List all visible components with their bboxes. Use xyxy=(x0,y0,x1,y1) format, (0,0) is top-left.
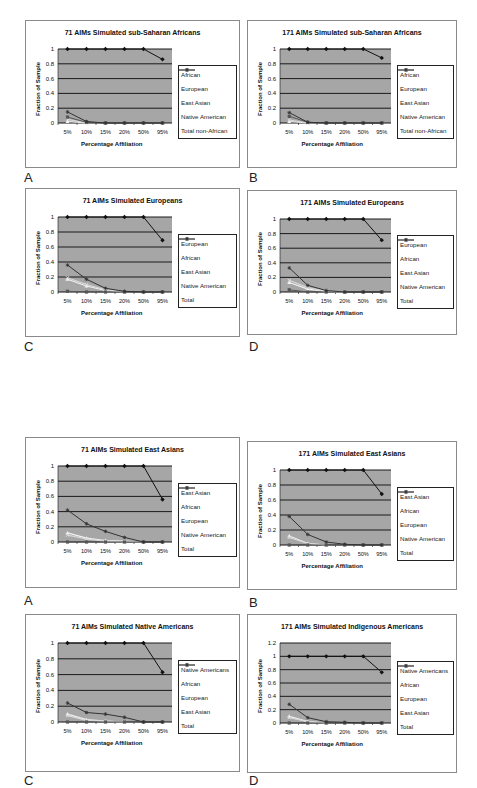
chart-legend: East AsianAfricanEuropeanNative American… xyxy=(397,487,454,561)
y-axis-label: Fraction of Sample xyxy=(35,658,41,712)
x-tick-label: 15% xyxy=(100,298,111,304)
x-tick-label: 5% xyxy=(285,729,293,735)
y-tick-label: 1.2 xyxy=(268,640,277,646)
chart-panel-top-C: 71 AIMs Simulated Europeans10.80.60.40.2… xyxy=(25,188,240,337)
legend-item: Total non-African xyxy=(181,123,234,137)
data-point-marker xyxy=(306,543,309,546)
data-point-marker xyxy=(288,721,291,724)
data-point-marker xyxy=(161,121,165,125)
y-tick-label: 0.2 xyxy=(46,524,55,530)
data-point-marker xyxy=(306,120,310,124)
panel-letter: C xyxy=(24,773,33,788)
x-tick-label: 5% xyxy=(63,129,71,135)
data-point-marker xyxy=(343,721,347,725)
data-point-marker xyxy=(85,711,89,715)
legend-label: European xyxy=(400,85,427,92)
x-tick-label: 5% xyxy=(63,548,71,554)
y-tick-label: 0.4 xyxy=(46,90,55,96)
x-axis-label: Percentage Affiliation xyxy=(302,141,363,147)
data-point-marker xyxy=(287,111,291,115)
x-tick-label: 95% xyxy=(376,298,387,304)
data-point-marker xyxy=(104,720,107,723)
panel-letter: B xyxy=(249,595,258,610)
x-tick-label: 50% xyxy=(358,729,369,735)
x-tick-label: 20% xyxy=(119,548,130,554)
y-tick-label: 0 xyxy=(273,120,277,126)
chart-legend: AfricanEuropeanEast AsianNative American… xyxy=(178,65,237,139)
data-point-marker xyxy=(288,543,291,546)
legend-item: Native American xyxy=(181,527,234,541)
data-point-marker xyxy=(123,720,126,723)
data-point-marker xyxy=(324,720,328,724)
chart-panel-top-A: 71 AIMs Simulated sub-Saharan Africans10… xyxy=(25,20,240,168)
y-tick-label: 0.8 xyxy=(268,231,277,237)
legend-item: Native American xyxy=(181,278,234,292)
legend-item: African xyxy=(181,676,234,690)
x-tick-label: 10% xyxy=(302,129,313,135)
y-tick-label: 0.4 xyxy=(46,259,55,265)
legend-swatch-icon xyxy=(179,661,195,669)
x-tick-label: 95% xyxy=(157,548,168,554)
y-tick-label: 0 xyxy=(273,542,277,548)
chart-panel-bottom-C: 71 AIMs Simulated Native Americans10.80.… xyxy=(25,614,240,772)
legend-label: East Asian xyxy=(400,269,429,276)
y-tick-label: 0.2 xyxy=(268,707,277,713)
data-point-marker xyxy=(142,540,146,544)
legend-label: Native American xyxy=(400,535,445,542)
x-axis-label: Percentage Affiliation xyxy=(302,563,363,569)
legend-label: Total xyxy=(181,296,194,303)
x-tick-label: 10% xyxy=(81,298,92,304)
data-point-marker xyxy=(85,290,88,293)
y-tick-label: 1 xyxy=(273,653,277,659)
x-axis-label: Percentage Affiliation xyxy=(81,141,142,147)
data-point-marker xyxy=(343,290,347,294)
legend-item: European xyxy=(181,81,234,95)
y-tick-label: 0.2 xyxy=(268,527,277,533)
legend-label: East Asian xyxy=(400,99,429,106)
data-point-marker xyxy=(287,266,291,270)
data-point-marker xyxy=(66,263,70,267)
x-tick-label: 5% xyxy=(63,298,71,304)
y-tick-label: 0.4 xyxy=(268,260,277,266)
data-point-marker xyxy=(104,530,108,534)
x-tick-label: 50% xyxy=(138,129,149,135)
y-axis-label: Fraction of Sample xyxy=(257,483,263,537)
legend-item: Native American xyxy=(400,109,451,123)
legend-item: Total xyxy=(400,545,451,559)
data-point-marker xyxy=(85,277,89,281)
x-axis-label: Percentage Affiliation xyxy=(81,560,142,566)
data-point-marker xyxy=(104,290,107,293)
data-point-marker xyxy=(185,68,189,72)
legend-swatch-icon xyxy=(179,484,195,492)
panel-letter: C xyxy=(24,339,33,354)
y-tick-label: 0 xyxy=(273,720,277,726)
x-tick-label: 50% xyxy=(358,298,369,304)
legend-swatch-icon xyxy=(398,662,414,670)
legend-label: Total xyxy=(400,549,413,556)
legend-label: East Asian xyxy=(181,268,210,275)
x-tick-label: 15% xyxy=(321,551,332,557)
legend-item: African xyxy=(400,251,451,265)
legend-label: European xyxy=(181,517,208,524)
legend-item: African xyxy=(181,499,234,513)
legend-label: East Asian xyxy=(181,99,210,106)
plot-background xyxy=(280,219,391,292)
data-point-marker xyxy=(142,290,146,294)
data-point-marker xyxy=(85,540,88,543)
data-point-marker xyxy=(66,115,69,118)
legend-item: Total xyxy=(181,718,234,732)
legend-label: Total non-African xyxy=(400,127,446,134)
data-point-marker xyxy=(104,286,108,290)
x-tick-label: 20% xyxy=(339,551,350,557)
legend-label: African xyxy=(400,255,419,262)
legend-label: European xyxy=(181,694,208,701)
y-tick-label: 0.6 xyxy=(268,76,277,82)
x-tick-label: 10% xyxy=(302,298,313,304)
chart-legend: EuropeanAfricanEast AsianNative American… xyxy=(397,235,454,309)
legend-swatch-icon xyxy=(398,488,414,496)
chart-panel-bottom-D: 171 AIMs Simulated Indigenous Americans1… xyxy=(247,614,457,773)
x-tick-label: 15% xyxy=(100,129,111,135)
y-tick-label: 0.4 xyxy=(46,509,55,515)
data-point-marker xyxy=(161,540,165,544)
data-point-marker xyxy=(104,712,108,716)
